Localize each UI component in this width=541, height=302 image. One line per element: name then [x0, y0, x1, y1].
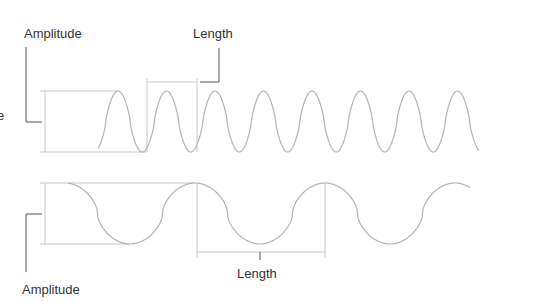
cropped-label-fragment: e — [0, 108, 4, 123]
top-amplitude-label: Amplitude — [24, 26, 82, 41]
bottom-wave-line — [68, 183, 470, 244]
top-wave-group: Amplitude Length — [24, 26, 479, 152]
top-amplitude-leader — [26, 47, 42, 122]
bottom-wave-group: Amplitude Length — [22, 183, 470, 297]
wave-diagram: e Amplitude Length Amplitude Length — [0, 0, 541, 302]
bottom-length-label: Length — [237, 266, 277, 281]
bottom-amplitude-label: Amplitude — [22, 282, 80, 297]
top-wave-line — [98, 91, 479, 152]
top-length-label: Length — [193, 26, 233, 41]
top-length-leader — [200, 48, 219, 82]
bottom-amplitude-leader — [26, 214, 42, 272]
